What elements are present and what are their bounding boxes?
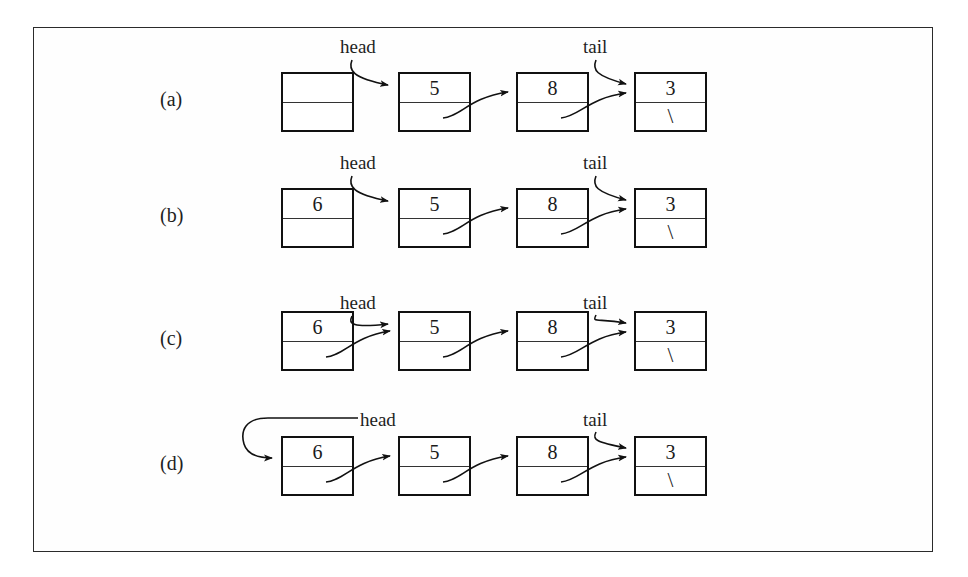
tail-label-b: tail — [583, 152, 607, 174]
node-d-3: 8 — [516, 436, 589, 496]
row-label-c: (c) — [160, 327, 182, 350]
node-d-2-value: 5 — [400, 438, 469, 467]
node-b-2-value: 5 — [400, 190, 469, 219]
row-label-a: (a) — [160, 88, 182, 111]
node-c-1: 6 — [281, 311, 354, 371]
node-a-2: 5 — [398, 72, 471, 132]
head-label-a: head — [340, 36, 376, 58]
head-label-b: head — [340, 152, 376, 174]
head-label-c: head — [340, 292, 376, 314]
node-b-1: 6 — [281, 188, 354, 248]
node-c-1-pointer — [283, 342, 352, 371]
node-b-1-value: 6 — [283, 190, 352, 219]
node-b-2: 5 — [398, 188, 471, 248]
node-c-3-pointer — [518, 342, 587, 371]
tail-label-d: tail — [583, 409, 607, 431]
node-d-1: 6 — [281, 436, 354, 496]
tail-label-c: tail — [583, 292, 607, 314]
node-a-1-value — [283, 74, 352, 103]
row-label-b: (b) — [160, 204, 183, 227]
node-d-2-pointer — [400, 467, 469, 496]
node-d-3-pointer — [518, 467, 587, 496]
node-b-4-null-pointer: \ — [636, 219, 705, 248]
node-d-3-value: 8 — [518, 438, 587, 467]
linked-list-figure: (a) 5 8 3 \ head tail (b) 6 5 8 3 \ head… — [0, 0, 968, 577]
node-b-2-pointer — [400, 219, 469, 248]
node-c-4: 3 \ — [634, 311, 707, 371]
node-a-3-pointer — [518, 103, 587, 132]
node-d-4-value: 3 — [636, 438, 705, 467]
node-b-1-pointer — [283, 219, 352, 248]
node-a-2-pointer — [400, 103, 469, 132]
node-c-3: 8 — [516, 311, 589, 371]
head-label-d: head — [360, 409, 396, 431]
node-a-4: 3 \ — [634, 72, 707, 132]
node-d-1-value: 6 — [283, 438, 352, 467]
node-c-2-value: 5 — [400, 313, 469, 342]
node-b-3-value: 8 — [518, 190, 587, 219]
node-d-1-pointer — [283, 467, 352, 496]
node-a-4-value: 3 — [636, 74, 705, 103]
node-a-1-pointer — [283, 103, 352, 132]
node-a-3: 8 — [516, 72, 589, 132]
node-b-4-value: 3 — [636, 190, 705, 219]
node-d-2: 5 — [398, 436, 471, 496]
node-a-4-null-pointer: \ — [636, 103, 705, 132]
node-c-2: 5 — [398, 311, 471, 371]
node-c-1-value: 6 — [283, 313, 352, 342]
row-label-d: (d) — [160, 452, 183, 475]
node-b-3: 8 — [516, 188, 589, 248]
node-d-4-null-pointer: \ — [636, 467, 705, 496]
tail-label-a: tail — [583, 36, 607, 58]
node-c-4-null-pointer: \ — [636, 342, 705, 371]
node-a-3-value: 8 — [518, 74, 587, 103]
node-b-3-pointer — [518, 219, 587, 248]
node-c-2-pointer — [400, 342, 469, 371]
node-a-1 — [281, 72, 354, 132]
node-b-4: 3 \ — [634, 188, 707, 248]
node-c-4-value: 3 — [636, 313, 705, 342]
node-a-2-value: 5 — [400, 74, 469, 103]
node-c-3-value: 8 — [518, 313, 587, 342]
node-d-4: 3 \ — [634, 436, 707, 496]
